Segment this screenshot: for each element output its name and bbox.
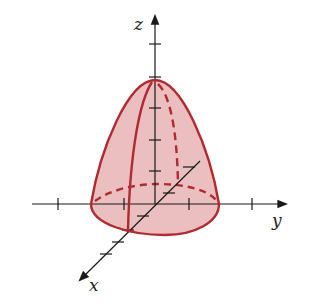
z-axis-label: z (133, 14, 144, 34)
x-axis-label: x (89, 275, 99, 295)
paraboloid-diagram: z y x (0, 0, 316, 304)
y-axis-label: y (271, 210, 282, 230)
